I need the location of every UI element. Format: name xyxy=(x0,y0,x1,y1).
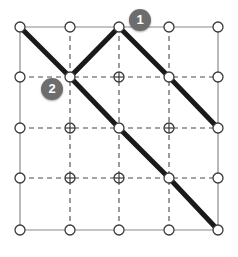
node-r3-c0 xyxy=(15,173,25,183)
node-r2-c4 xyxy=(213,123,223,133)
node-r1-c1 xyxy=(65,72,75,82)
node-r1-c3 xyxy=(164,72,174,82)
node-r3-c1 xyxy=(65,173,75,183)
node-r4-c3 xyxy=(164,225,174,235)
node-r1-c2 xyxy=(114,72,124,82)
node-r4-c4 xyxy=(213,225,223,235)
node-r2-c1 xyxy=(65,123,75,133)
node-r1-c0 xyxy=(15,72,25,82)
step-marker-2-label: 2 xyxy=(41,78,63,100)
node-r0-c2 xyxy=(114,22,124,32)
node-r2-c2 xyxy=(114,123,124,133)
step-marker-1-label: 1 xyxy=(129,9,151,31)
node-r3-c2 xyxy=(114,173,124,183)
lattice-path-diagram: 1 2 xyxy=(0,0,238,257)
node-r4-c2 xyxy=(114,225,124,235)
grid-canvas xyxy=(0,0,238,257)
node-r4-c1 xyxy=(65,225,75,235)
node-r4-c0 xyxy=(15,225,25,235)
node-r0-c0 xyxy=(15,22,25,32)
node-r3-c4 xyxy=(213,173,223,183)
node-r0-c1 xyxy=(65,22,75,32)
step-marker-2: 2 xyxy=(41,78,63,100)
node-r2-c0 xyxy=(15,123,25,133)
node-r0-c3 xyxy=(164,22,174,32)
node-r1-c4 xyxy=(213,72,223,82)
node-r3-c3 xyxy=(164,173,174,183)
node-r0-c4 xyxy=(213,22,223,32)
step-marker-1: 1 xyxy=(129,9,151,31)
path-segment-diagonal xyxy=(70,77,218,230)
node-r2-c3 xyxy=(164,123,174,133)
